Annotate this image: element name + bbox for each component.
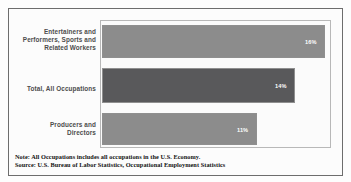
bar-total-all-occupations[interactable] xyxy=(102,68,295,103)
chart-footnotes: Note: All Occupations includes all occup… xyxy=(15,153,315,170)
source-line: Source: U.S. Bureau of Labor Statistics,… xyxy=(15,161,315,169)
bar-value-label: 14% xyxy=(275,83,287,89)
chart-figure: Entertainers and Performers, Sports and … xyxy=(0,0,351,182)
bar-entertainers-performers[interactable] xyxy=(102,25,325,58)
bar-category-label-line: Performers, Sports and xyxy=(23,36,96,43)
bar-category-label: Total, All Occupations xyxy=(14,85,96,93)
bar-category-label: Producers and Directors xyxy=(14,121,96,137)
cropped-title-strip xyxy=(80,0,270,7)
bar-value-label: 11% xyxy=(237,127,248,133)
bar-producers-directors[interactable] xyxy=(102,113,257,145)
bar-category-label-line: Related Workers xyxy=(44,44,96,51)
bar-category-label-line: Producers and xyxy=(50,121,96,128)
bar-category-label-line: Directors xyxy=(67,129,96,136)
note-line: Note: All Occupations includes all occup… xyxy=(15,153,315,161)
bar-value-label: 16% xyxy=(305,39,317,45)
bar-category-label-line: Entertainers and xyxy=(44,28,96,35)
bar-category-label: Entertainers and Performers, Sports and … xyxy=(14,28,96,53)
bar-category-label-line: Total, All Occupations xyxy=(27,85,96,92)
